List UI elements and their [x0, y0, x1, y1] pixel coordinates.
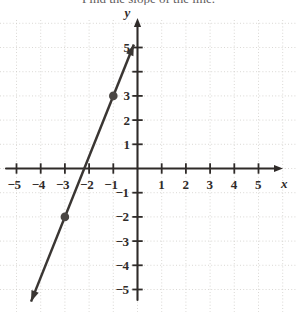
x-tick-label: −5: [8, 178, 21, 191]
x-tick-label: −2: [80, 178, 93, 191]
y-tick-label: 3: [124, 89, 130, 102]
y-axis-label: y: [125, 6, 131, 19]
x-tick-label: 2: [182, 178, 188, 191]
y-tick-label: −5: [116, 283, 129, 296]
y-axis-arrowhead: [134, 18, 141, 27]
x-tick-label: 3: [207, 178, 213, 191]
y-tick-label: 1: [124, 138, 130, 151]
x-axis-arrowhead: [274, 165, 283, 172]
x-tick-label: 1: [158, 178, 164, 191]
coordinate-plane: [0, 0, 297, 312]
x-axis-label: x: [281, 177, 288, 190]
y-tick-label: −3: [116, 235, 129, 248]
x-tick-label: 4: [231, 178, 237, 191]
data-point: [109, 92, 118, 101]
x-tick-label: −3: [56, 178, 69, 191]
y-tick-label: 2: [124, 114, 130, 127]
graph-figure: Find the slope of the line. −5−4−3−2−112…: [0, 0, 297, 312]
y-tick-label: −4: [116, 259, 129, 272]
x-tick-label: 5: [255, 178, 261, 191]
x-tick-label: −4: [32, 178, 45, 191]
y-tick-label: 5: [124, 41, 130, 54]
y-tick-label: −1: [116, 186, 129, 199]
data-point: [61, 213, 70, 222]
line-arrowhead-start: [31, 290, 39, 302]
y-tick-label: −2: [116, 210, 129, 223]
